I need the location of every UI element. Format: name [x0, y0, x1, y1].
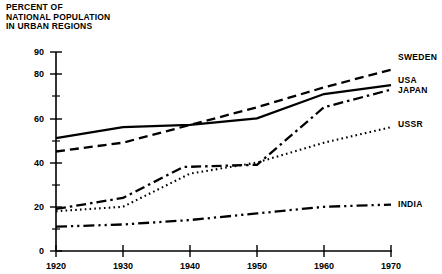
series-label-india: INDIA [398, 199, 423, 209]
y-tick-label-80: 80 [34, 69, 44, 79]
series-label-japan: JAPAN [398, 85, 428, 95]
series-line-ussr [56, 127, 391, 211]
line-chart-plot: 0 20 40 60 80 90 1920 1930 1940 1950 196… [0, 0, 442, 274]
x-tick-label-1950: 1950 [247, 261, 267, 271]
y-tick-label-20: 20 [34, 202, 44, 212]
y-tick-label-90: 90 [34, 47, 44, 57]
y-tick-label-60: 60 [34, 114, 44, 124]
series-line-india [56, 205, 391, 227]
series-line-sweden [56, 70, 391, 152]
x-tick-label-1960: 1960 [314, 261, 334, 271]
x-tick-label-1970: 1970 [381, 261, 401, 271]
chart-container: PERCENT OF NATIONAL POPULATION IN URBAN … [0, 0, 442, 274]
x-tick-label-1920: 1920 [46, 261, 66, 271]
series-line-japan [56, 90, 391, 209]
series-label-sweden: SWEDEN [398, 52, 437, 62]
y-tick-label-40: 40 [34, 158, 44, 168]
y-tick-label-0: 0 [39, 246, 44, 256]
x-tick-label-1930: 1930 [113, 261, 133, 271]
x-tick-label-1940: 1940 [180, 261, 200, 271]
series-label-usa: USA [398, 75, 417, 85]
series-line-usa [56, 85, 391, 138]
series-label-ussr: USSR [398, 119, 423, 129]
